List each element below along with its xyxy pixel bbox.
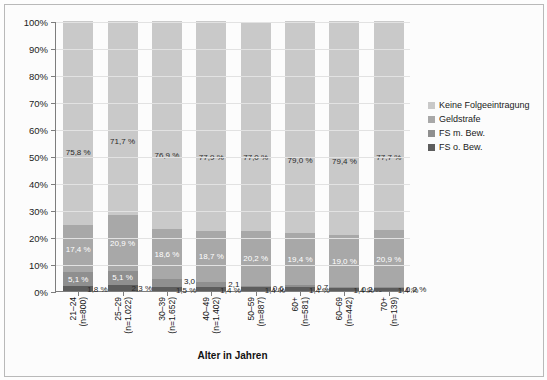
- bar-segment-label: 0,2 %: [406, 285, 426, 294]
- gridline: [56, 157, 410, 158]
- gridline: [56, 103, 410, 104]
- bar-segment-label: 17,4 %: [63, 245, 93, 254]
- y-axis-tick: [51, 238, 56, 239]
- bar-segment[interactable]: 79,0 %: [285, 21, 315, 233]
- legend-item[interactable]: FS o. Bew.: [428, 142, 540, 153]
- bar-segment[interactable]: 18,6 %: [152, 229, 182, 279]
- bar-segment[interactable]: 5,1 %: [108, 271, 138, 285]
- legend-item-label: Geldstrafe: [439, 114, 481, 125]
- bar-segment-label: 71,7 %: [108, 137, 138, 146]
- x-axis-category: 21–24(n=800): [63, 291, 93, 327]
- stacked-bar[interactable]: 1,4 %0,7 %19,4 %79,0 %: [285, 21, 315, 291]
- legend-swatch-icon: [428, 130, 435, 137]
- bar-segment[interactable]: 20,9 %: [108, 215, 138, 271]
- bar-segment-label: 79,4 %: [329, 157, 359, 166]
- bar-segment[interactable]: 71,7 %: [108, 21, 138, 215]
- legend-item-label: FS o. Bew.: [439, 142, 483, 153]
- chart-root: 1,8 %5,1 %17,4 %75,8 %2,3 %5,1 %20,9 %71…: [0, 0, 547, 380]
- legend-swatch-icon: [428, 102, 435, 109]
- stacked-bar[interactable]: 1,8 %5,1 %17,4 %75,8 %: [63, 21, 93, 291]
- y-axis-tick-label: 0%: [34, 287, 48, 298]
- bar-segment-label: 76,9 %: [152, 151, 182, 160]
- y-axis-tick-label: 10%: [29, 260, 48, 271]
- x-axis-category-label: 70+: [379, 297, 389, 327]
- stacked-bar[interactable]: 2,3 %5,1 %20,9 %71,7 %: [108, 21, 138, 291]
- y-axis-tick: [51, 157, 56, 158]
- bar-segment[interactable]: 5,1 %: [63, 272, 93, 286]
- gridline: [56, 184, 410, 185]
- stacked-bar[interactable]: 1,5 %3,0 %18,6 %76,9 %: [152, 21, 182, 291]
- y-axis-tick-label: 40%: [29, 179, 48, 190]
- bar-segment[interactable]: 77,9 %: [196, 21, 226, 231]
- bar-segment-label: 20,9 %: [108, 239, 138, 248]
- y-axis-tick: [51, 22, 56, 23]
- bar-segment[interactable]: 20,2 %: [241, 231, 271, 286]
- bar-segment-label: 75,8 %: [63, 148, 93, 157]
- x-axis-category-count: (n=139): [389, 297, 399, 327]
- bar-segment[interactable]: 0,7 %: [285, 285, 315, 287]
- gridline: [56, 211, 410, 212]
- bar-segment-label: 5,1 %: [63, 275, 93, 284]
- y-axis-tick-label: 60%: [29, 125, 48, 136]
- bar-segment[interactable]: 0,2 %: [329, 287, 359, 288]
- bar-segment-label: 5,1 %: [108, 273, 138, 282]
- gridline: [56, 238, 410, 239]
- bar-segment[interactable]: 19,0 %: [329, 235, 359, 286]
- x-axis-category: 70+(n=139): [374, 291, 404, 327]
- y-axis-tick-label: 90%: [29, 44, 48, 55]
- legend-item[interactable]: Keine Folgeeintragung: [428, 100, 540, 111]
- x-axis-category-count: (n=800): [78, 297, 88, 327]
- y-axis-tick-label: 80%: [29, 71, 48, 82]
- bar-segment-label: 19,4 %: [285, 255, 315, 264]
- x-axis-category-label: 30–39: [157, 297, 167, 334]
- x-axis-category-count: (n=887): [256, 297, 266, 327]
- bar-segment-label: 18,7 %: [196, 252, 226, 261]
- stacked-bar[interactable]: 1,4 %2,1 %18,7 %77,9 %: [196, 21, 226, 291]
- y-axis-tick: [51, 76, 56, 77]
- stacked-bar[interactable]: 1,4 %0,2 %20,9 %77,7 %: [374, 21, 404, 291]
- bar-segment-label: 20,2 %: [241, 254, 271, 263]
- bar-segment[interactable]: 0,2 %: [374, 287, 404, 288]
- y-axis-tick: [51, 265, 56, 266]
- gridline: [56, 22, 410, 23]
- bar-segment[interactable]: 0,6 %: [241, 286, 271, 288]
- y-axis-tick-label: 70%: [29, 98, 48, 109]
- legend-item[interactable]: FS m. Bew.: [428, 128, 540, 139]
- bar-segment[interactable]: 76,9 %: [152, 21, 182, 229]
- x-axis-title: Alter in Jahren: [55, 350, 410, 361]
- bar-segment[interactable]: 77,0 %: [241, 23, 271, 231]
- x-axis-category-count: (n=442): [344, 297, 354, 327]
- bar-segment[interactable]: 77,7 %: [374, 21, 404, 230]
- x-axis-category: 25–29(n=1.022): [108, 291, 138, 334]
- legend-item[interactable]: Geldstrafe: [428, 114, 540, 125]
- bar-segment[interactable]: 3,0 %: [152, 279, 182, 287]
- x-axis-category-label: 60+: [290, 297, 300, 327]
- bar-segment[interactable]: 19,4 %: [285, 233, 315, 285]
- x-axis-category: 40–49(n=1.402): [196, 291, 226, 334]
- x-axis-category-count: (n=581): [300, 297, 310, 327]
- y-axis-tick-label: 30%: [29, 206, 48, 217]
- y-axis-tick: [51, 184, 56, 185]
- gridline: [56, 130, 410, 131]
- y-axis-tick: [51, 292, 56, 293]
- bar-segment[interactable]: 75,8 %: [63, 21, 93, 225]
- gridline: [56, 49, 410, 50]
- gridline: [56, 76, 410, 77]
- y-axis-tick-label: 50%: [29, 152, 48, 163]
- x-axis-category: 50–59(n=887): [241, 291, 271, 327]
- legend-item-label: Keine Folgeeintragung: [439, 100, 530, 111]
- legend-swatch-icon: [428, 144, 435, 151]
- x-axis-category-count: (n=1.652): [167, 297, 177, 334]
- legend-swatch-icon: [428, 116, 435, 123]
- bar-segment-label: 18,6 %: [152, 250, 182, 259]
- x-axis-category: 60+(n=581): [285, 291, 315, 327]
- bar-segment[interactable]: 2,1 %: [196, 282, 226, 288]
- plot-area: 1,8 %5,1 %17,4 %75,8 %2,3 %5,1 %20,9 %71…: [55, 22, 410, 292]
- x-axis-category-label: 25–29: [113, 297, 123, 334]
- y-axis-tick: [51, 130, 56, 131]
- bar-segment[interactable]: 79,4 %: [329, 21, 359, 235]
- y-axis-tick-label: 20%: [29, 233, 48, 244]
- x-axis-category-label: 21–24: [68, 297, 78, 327]
- stacked-bar[interactable]: 1,4 %0,6 %20,2 %77,0 %: [241, 21, 271, 291]
- stacked-bar[interactable]: 1,4 %0,2 %19,0 %79,4 %: [329, 21, 359, 291]
